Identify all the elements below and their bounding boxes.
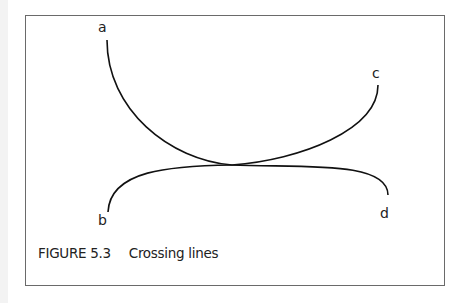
figure-number: FIGURE 5.3 — [38, 245, 111, 261]
label-c: c — [372, 66, 380, 80]
figure-title: Crossing lines — [129, 245, 218, 261]
label-a: a — [98, 20, 107, 34]
figure-caption: FIGURE 5.3 Crossing lines — [38, 245, 218, 261]
label-d: d — [380, 206, 389, 220]
curve-a-to-d — [107, 40, 388, 195]
curve-b-to-c — [108, 85, 378, 212]
label-b: b — [98, 213, 107, 227]
